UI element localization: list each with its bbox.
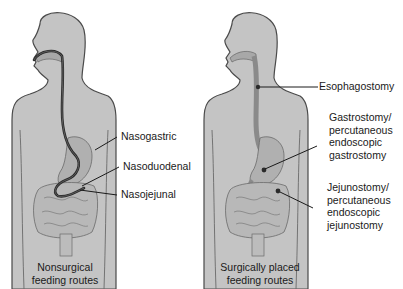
left-torso-figure xyxy=(12,13,116,289)
caption-line: Surgically placed xyxy=(210,261,310,274)
label-line: Jejunostomy/ xyxy=(327,181,391,194)
caption-surgical: Surgically placed feeding routes xyxy=(210,261,310,286)
label-nasoduodenal: Nasoduodenal xyxy=(123,160,191,173)
label-gastrostomy: Gastrostomy/ percutaneous endoscopic gas… xyxy=(329,111,393,161)
label-line: endoscopic xyxy=(329,136,393,149)
label-line: percutaneous xyxy=(329,124,393,137)
label-line: Gastrostomy/ xyxy=(329,111,393,124)
caption-line: Nonsurgical xyxy=(20,261,110,274)
label-line: gastrostomy xyxy=(329,149,393,162)
caption-line: feeding routes xyxy=(20,274,110,287)
label-jejunostomy: Jejunostomy/ percutaneous endoscopic jej… xyxy=(327,181,391,231)
label-line: endoscopic xyxy=(327,206,391,219)
label-nasogastric: Nasogastric xyxy=(121,130,176,143)
label-esophagostomy: Esophagostomy xyxy=(319,80,394,93)
label-line: jejunostomy xyxy=(327,219,391,232)
label-nasojejunal: Nasojejunal xyxy=(121,188,176,201)
caption-line: feeding routes xyxy=(210,274,310,287)
label-line: percutaneous xyxy=(327,194,391,207)
right-torso-figure xyxy=(204,13,308,289)
jejunostomy-site-icon xyxy=(276,189,281,194)
caption-nonsurgical: Nonsurgical feeding routes xyxy=(20,261,110,286)
esophagostomy-site-icon xyxy=(256,85,260,89)
